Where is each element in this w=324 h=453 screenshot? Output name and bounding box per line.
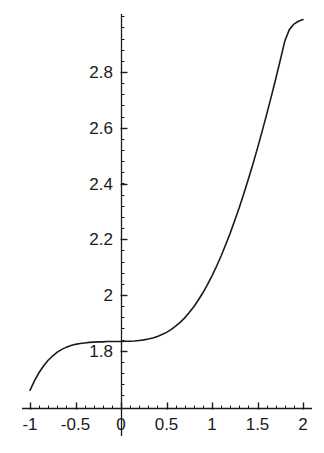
x-tick-label: -0.5 (61, 416, 90, 433)
y-tick-label: 2 (104, 287, 113, 304)
y-tick-label: 2.8 (89, 64, 113, 81)
x-tick-label: 1.5 (246, 416, 270, 433)
y-tick-label: 1.8 (89, 342, 113, 359)
y-tick-label: 2.6 (89, 119, 113, 136)
minor-ticks-group (31, 17, 304, 409)
major-ticks-group (31, 73, 304, 410)
y-tick-label: 2.4 (89, 175, 113, 192)
y-tick-label: 2.2 (89, 231, 113, 248)
x-tick-label: 0 (116, 416, 125, 433)
axes-group (22, 14, 312, 436)
x-tick-label: 0.5 (155, 416, 179, 433)
plot-canvas (0, 0, 324, 453)
data-curve (30, 20, 303, 391)
chart-figure: 1.822.22.42.62.8 -1-0.500.511.52 (0, 0, 324, 453)
x-tick-label: 1 (207, 416, 216, 433)
x-tick-label: -1 (22, 416, 37, 433)
x-tick-label: 2 (298, 416, 307, 433)
